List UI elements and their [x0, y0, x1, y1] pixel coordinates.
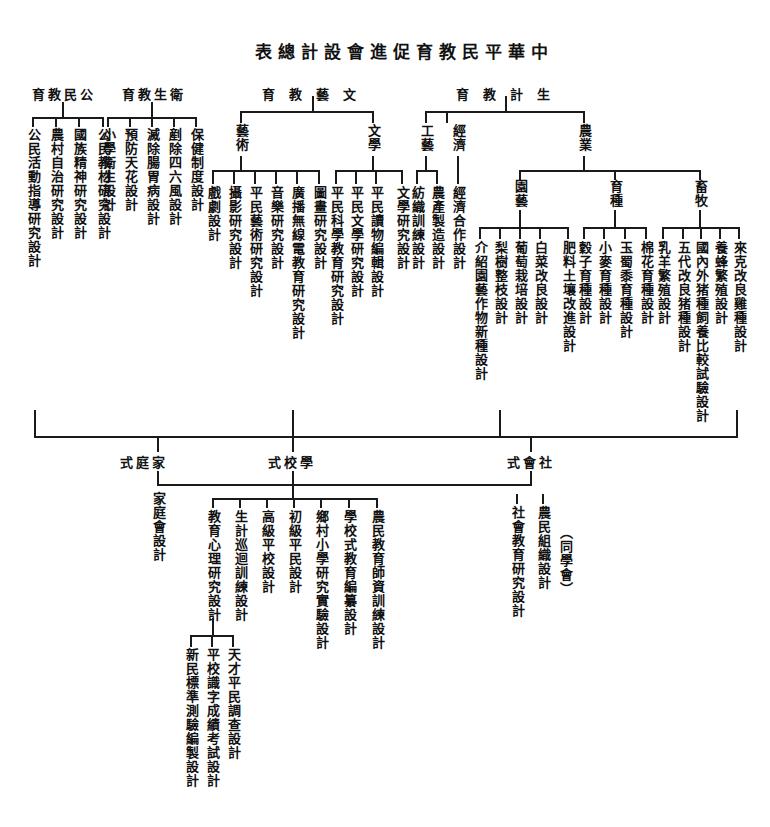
leaf-node: 圖畫研究設計 [312, 186, 326, 270]
chart-title: 中華平民教育促進會設計總表 [255, 38, 554, 63]
leaf-node: 五代改良猪種設計 [676, 241, 690, 353]
leaf-node: 廣播無線電教育研究設計 [290, 186, 304, 340]
leaf-node: 玉蜀黍育種設計 [618, 241, 632, 339]
branch-health-education: 衛生教育 [122, 84, 186, 103]
subgroup-livestock: 畜牧 [693, 180, 707, 208]
leaf-node: 農產製造設計 [430, 186, 444, 270]
branch-civic-education: 公民教育 [32, 84, 96, 103]
leaf-node: 剷除四六風設計 [167, 128, 181, 226]
leaf-node: 平民文學研究設計 [349, 186, 363, 298]
leaf-node: 學校式教育編纂設計 [342, 510, 356, 636]
mode-society: 社會式 [505, 452, 557, 471]
leaf-node: 攝影研究設計 [227, 186, 241, 270]
leaf-node: 國族精神研究設計 [72, 128, 86, 240]
leaf-node: 來克改良雞種設計 [732, 241, 746, 353]
mode-school: 學校式 [266, 452, 318, 471]
leaf-node: 穀子育種設計 [577, 241, 591, 325]
horizontal-bus [36, 436, 738, 438]
leaf-node: 棉花育種設計 [639, 241, 653, 325]
leaf-node: 預防天花設計 [123, 128, 137, 212]
leaf-node: 國內外猪種飼養比較試驗設計 [694, 241, 708, 423]
leaf-node: 紡織訓練設計 [410, 186, 424, 270]
group-economics: 經濟 [451, 124, 465, 152]
leaf-node: 介紹園藝作物新種設計 [473, 241, 487, 381]
leaf-node: 音樂研究設計 [269, 186, 283, 270]
leaf-node: 平民科學教育研究設計 [329, 186, 343, 326]
leaf-node: 小麥育種設計 [597, 241, 611, 325]
connector [34, 410, 36, 438]
group-agriculture: 農業 [577, 124, 591, 152]
subgroup-horticulture: 園藝 [513, 180, 527, 208]
subgroup-breeding: 育種 [608, 180, 622, 208]
leaf-node: 教育心理研究設計 [206, 510, 220, 622]
group-crafts: 工藝 [419, 124, 433, 152]
leaf-node: 家庭會設計 [151, 492, 165, 562]
leaf-node: 農村自治研究設計 [49, 128, 63, 240]
leaf-node: 經濟合作設計 [451, 186, 465, 270]
leaf-node: 新民標準測驗編製設計 [184, 648, 198, 788]
leaf-node: 乳羊繁殖設計 [656, 241, 670, 325]
leaf-node: 平校識字成績考試設計 [205, 648, 219, 788]
leaf-node: 平民讀物編輯設計 [369, 186, 383, 298]
mode-family: 家庭式 [118, 452, 170, 471]
leaf-node: 滅除腸胃病設計 [145, 128, 159, 226]
note-alumni-association: （同學會） [558, 526, 572, 596]
leaf-node: 葡萄栽培設計 [513, 241, 527, 325]
leaf-node: 生計巡迴訓練設計 [233, 510, 247, 622]
leaf-node: 高級平校設計 [260, 510, 274, 594]
leaf-node: 農民教育師資訓練設計 [370, 510, 384, 650]
leaf-node: 養蜂繁殖設計 [713, 241, 727, 325]
branch-arts-education: 文藝教育 [262, 84, 370, 103]
leaf-node: 公民活動指導研究設計 [26, 128, 40, 268]
leaf-node: 農民組織設計 [536, 506, 550, 590]
branch-livelihood-education: 生計教育 [456, 84, 564, 103]
leaf-node: 文學研究設計 [395, 186, 409, 270]
leaf-node: 天才平民調查設計 [226, 648, 240, 760]
leaf-node: 肥料土壤改進設計 [561, 241, 575, 353]
leaf-node: 戲劇設計 [206, 186, 220, 242]
leaf-node: 平民藝術研究設計 [248, 186, 262, 298]
leaf-node: 小學衛生設計 [101, 128, 115, 212]
group-literature: 文學 [366, 124, 380, 152]
group-art: 藝術 [234, 124, 248, 152]
leaf-node: 白菜改良設計 [533, 241, 547, 325]
leaf-node: 初級平民設計 [287, 510, 301, 594]
leaf-node: 梨樹整枝設計 [493, 241, 507, 325]
leaf-node: 保健制度設計 [189, 128, 203, 212]
leaf-node: 鄉村小學研究實驗設計 [314, 510, 328, 650]
leaf-node: 社會教育研究設計 [510, 506, 524, 618]
